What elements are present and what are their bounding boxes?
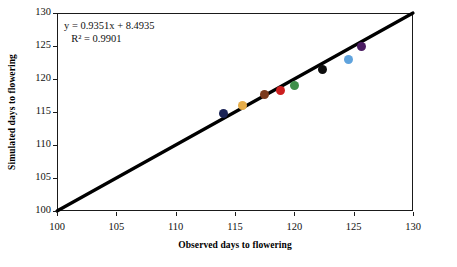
x-tick-mark bbox=[116, 212, 117, 216]
x-tick-mark bbox=[57, 212, 58, 216]
y-tick-label: 105 bbox=[17, 171, 51, 182]
x-tick-label: 125 bbox=[334, 221, 374, 232]
x-tick-label: 100 bbox=[37, 221, 77, 232]
y-tick-label: 120 bbox=[17, 72, 51, 83]
x-tick-mark bbox=[176, 212, 177, 216]
y-axis-title: Simulated days to flowering bbox=[7, 12, 17, 212]
y-tick-mark bbox=[53, 46, 57, 47]
point-navy bbox=[219, 109, 228, 118]
x-tick-mark bbox=[413, 212, 414, 216]
point-black bbox=[318, 65, 327, 74]
point-red bbox=[276, 86, 285, 95]
point-green bbox=[290, 81, 299, 90]
x-tick-label: 120 bbox=[274, 221, 314, 232]
x-tick-mark bbox=[235, 212, 236, 216]
r-squared-value: R² = 0.9901 bbox=[64, 33, 155, 46]
y-tick-label: 125 bbox=[17, 39, 51, 50]
y-tick-label: 130 bbox=[17, 6, 51, 17]
point-tan bbox=[238, 101, 247, 110]
y-tick-mark bbox=[53, 13, 57, 14]
y-tick-mark bbox=[53, 79, 57, 80]
y-tick-mark bbox=[53, 145, 57, 146]
regression-annotation: y = 0.9351x + 8.4935 R² = 0.9901 bbox=[64, 20, 155, 45]
x-axis-title: Observed days to flowering bbox=[57, 240, 413, 250]
scatter-chart: y = 0.9351x + 8.4935 R² = 0.9901 1001051… bbox=[0, 0, 457, 267]
x-tick-mark bbox=[354, 212, 355, 216]
y-tick-label: 100 bbox=[17, 204, 51, 215]
x-tick-label: 115 bbox=[215, 221, 255, 232]
y-tick-label: 110 bbox=[17, 138, 51, 149]
x-tick-label: 105 bbox=[96, 221, 136, 232]
point-purple bbox=[357, 42, 366, 51]
y-tick-mark bbox=[53, 178, 57, 179]
x-tick-mark bbox=[294, 212, 295, 216]
regression-equation: y = 0.9351x + 8.4935 bbox=[64, 20, 155, 33]
y-tick-label: 115 bbox=[17, 105, 51, 116]
y-tick-mark bbox=[53, 112, 57, 113]
x-tick-label: 130 bbox=[393, 221, 433, 232]
x-tick-label: 110 bbox=[156, 221, 196, 232]
